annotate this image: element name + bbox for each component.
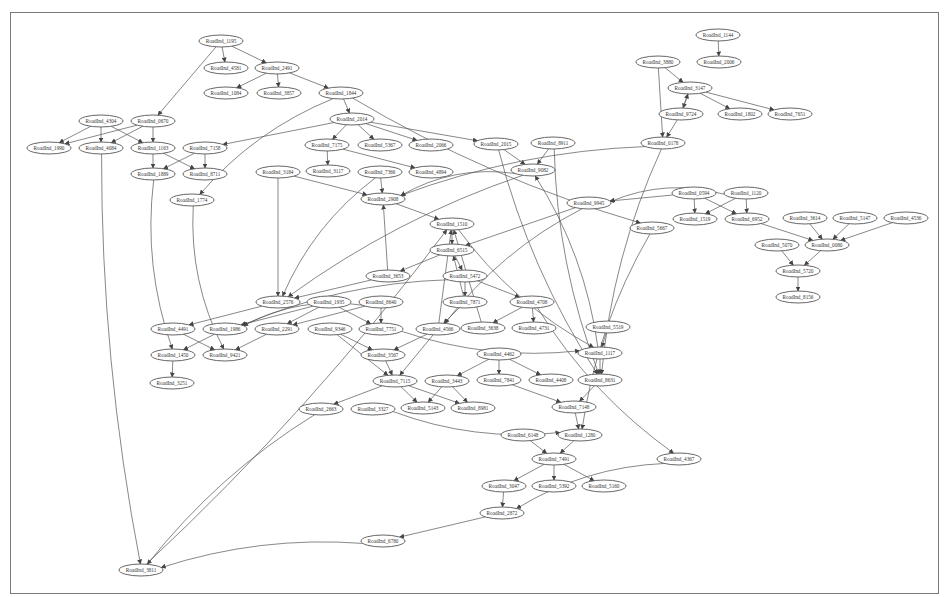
graph-node[interactable]: RoadInd_7366 — [358, 166, 402, 178]
graph-node[interactable]: RoadInd_2872 — [480, 507, 524, 519]
graph-node[interactable]: RoadInd_3251 — [150, 377, 194, 389]
graph-node[interactable]: RoadInd_1117 — [578, 347, 622, 359]
graph-node[interactable]: RoadInd_8711 — [183, 168, 227, 180]
graph-node[interactable]: RoadInd_1084 — [204, 87, 248, 99]
graph-node[interactable]: RoadInd_5147 — [833, 212, 877, 224]
graph-node[interactable]: RoadInd_7148 — [552, 401, 596, 413]
graph-node[interactable]: RoadInd_2908 — [361, 193, 405, 205]
graph-node[interactable]: RoadInd_0080 — [805, 239, 849, 251]
graph-node[interactable]: RoadInd_2291 — [255, 323, 299, 335]
graph-node[interactable]: RoadInd_7158 — [183, 142, 227, 154]
graph-node[interactable]: RoadInd_6148 — [501, 429, 545, 441]
graph-node[interactable]: RoadInd_5143 — [401, 402, 445, 414]
graph-node[interactable]: RoadInd_7651 — [768, 108, 812, 120]
graph-node[interactable]: RoadInd_4084 — [79, 142, 123, 154]
graph-node[interactable]: RoadInd_2006 — [697, 56, 741, 68]
graph-node[interactable]: RoadInd_8631 — [578, 374, 622, 386]
graph-node[interactable]: RoadInd_2066 — [409, 139, 453, 151]
node-label: RoadInd_1450 — [158, 352, 189, 358]
graph-node[interactable]: RoadInd_4462 — [477, 348, 521, 360]
graph-node[interactable]: RoadInd_7751 — [359, 323, 403, 335]
graph-node[interactable]: RoadInd_3638 — [461, 322, 505, 334]
graph-edge — [290, 73, 329, 88]
node-label: RoadInd_2006 — [704, 59, 735, 65]
node-label: RoadInd_7115 — [380, 378, 411, 384]
graph-node[interactable]: RoadInd_1802 — [718, 108, 762, 120]
graph-node[interactable]: RoadInd_4581 — [204, 62, 248, 74]
graph-node[interactable]: RoadInd_5472 — [443, 270, 487, 282]
graph-node[interactable]: RoadInd_1144 — [696, 29, 740, 41]
graph-node[interactable]: RoadInd_9082 — [511, 164, 555, 176]
graph-node[interactable]: RoadInd_3117 — [306, 165, 350, 177]
graph-node[interactable]: RoadInd_3443 — [425, 375, 469, 387]
graph-node[interactable]: RoadInd_1844 — [319, 87, 363, 99]
graph-node[interactable]: RoadInd_3857 — [257, 87, 301, 99]
graph-node[interactable]: RoadInd_1990 — [27, 142, 71, 154]
graph-node[interactable]: RoadInd_9945 — [567, 197, 611, 209]
graph-node[interactable]: RoadInd_4566 — [416, 323, 460, 335]
graph-node[interactable]: RoadInd_7871 — [443, 296, 487, 308]
node-label: RoadInd_1986 — [210, 326, 241, 332]
graph-node[interactable]: RoadInd_2014 — [330, 113, 374, 125]
graph-node[interactable]: RoadInd_1195 — [199, 35, 243, 47]
graph-node[interactable]: RoadInd_7491 — [532, 453, 576, 465]
graph-node[interactable]: RoadInd_0594 — [672, 187, 716, 199]
graph-node[interactable]: RoadInd_3614 — [783, 212, 827, 224]
graph-edge — [466, 208, 576, 246]
graph-node[interactable]: RoadInd_4367 — [657, 453, 701, 465]
graph-node[interactable]: RoadInd_4894 — [409, 166, 453, 178]
graph-node[interactable]: RoadInd_1510 — [430, 218, 474, 230]
graph-node[interactable]: RoadInd_8156 — [776, 291, 820, 303]
graph-node[interactable]: RoadInd_6515 — [430, 244, 474, 256]
graph-node[interactable]: RoadInd_8911 — [531, 137, 575, 149]
graph-node[interactable]: RoadInd_0670 — [131, 115, 175, 127]
graph-node[interactable]: RoadInd_1935 — [307, 296, 351, 308]
graph-node[interactable]: RoadInd_3047 — [482, 480, 526, 492]
graph-node[interactable]: RoadInd_2576 — [256, 296, 300, 308]
graph-node[interactable]: RoadInd_1519 — [673, 213, 717, 225]
graph-node[interactable]: RoadInd_5392 — [532, 480, 576, 492]
graph-node[interactable]: RoadInd_3653 — [366, 270, 410, 282]
graph-node[interactable]: RoadInd_6952 — [725, 213, 769, 225]
graph-node[interactable]: RoadInd_1450 — [151, 349, 195, 361]
graph-node[interactable]: RoadInd_4491 — [151, 323, 195, 335]
graph-node[interactable]: RoadInd_1774 — [170, 194, 214, 206]
graph-node[interactable]: RoadInd_2663 — [299, 403, 343, 415]
graph-node[interactable]: RoadInd_1120 — [724, 187, 768, 199]
graph-node[interactable]: RoadInd_3567 — [361, 349, 405, 361]
graph-edge — [746, 199, 747, 213]
graph-node[interactable]: RoadInd_1280 — [558, 429, 602, 441]
graph-node[interactable]: RoadInd_4304 — [79, 115, 123, 127]
graph-node[interactable]: RoadInd_1163 — [131, 142, 175, 154]
graph-node[interactable]: RoadInd_2491 — [255, 62, 299, 74]
graph-node[interactable]: RoadInd_3880 — [636, 56, 680, 68]
graph-node[interactable]: RoadInd_4731 — [512, 322, 556, 334]
graph-node[interactable]: RoadInd_5720 — [776, 265, 820, 277]
graph-node[interactable]: RoadInd_3811 — [119, 564, 163, 576]
graph-node[interactable]: RoadInd_9421 — [203, 349, 247, 361]
graph-node[interactable]: RoadInd_5367 — [358, 139, 402, 151]
graph-node[interactable]: RoadInd_4536 — [884, 212, 928, 224]
graph-node[interactable]: RoadInd_4708 — [510, 296, 554, 308]
graph-node[interactable]: RoadInd_9724 — [659, 108, 703, 120]
graph-node[interactable]: RoadInd_9346 — [308, 323, 352, 335]
graph-node[interactable]: RoadInd_0178 — [641, 137, 685, 149]
graph-node[interactable]: RoadInd_5519 — [586, 321, 630, 333]
graph-edge — [102, 154, 141, 564]
graph-node[interactable]: RoadInd_3327 — [351, 403, 395, 415]
graph-node[interactable]: RoadInd_7841 — [477, 374, 521, 386]
graph-node[interactable]: RoadInd_7175 — [305, 139, 349, 151]
graph-node[interactable]: RoadInd_5160 — [582, 480, 626, 492]
graph-node[interactable]: RoadInd_3184 — [256, 166, 300, 178]
graph-node[interactable]: RoadInd_8981 — [451, 402, 495, 414]
graph-node[interactable]: RoadInd_5070 — [755, 239, 799, 251]
graph-node[interactable]: RoadInd_8640 — [359, 296, 403, 308]
graph-node[interactable]: RoadInd_7115 — [373, 375, 417, 387]
graph-node[interactable]: RoadInd_2015 — [474, 138, 518, 150]
graph-node[interactable]: RoadInd_6780 — [361, 535, 405, 547]
graph-node[interactable]: RoadInd_5667 — [630, 222, 674, 234]
graph-node[interactable]: RoadInd_1889 — [131, 168, 175, 180]
graph-node[interactable]: RoadInd_3147 — [668, 82, 712, 94]
graph-node[interactable]: RoadInd_4408 — [529, 374, 573, 386]
graph-node[interactable]: RoadInd_1986 — [203, 323, 247, 335]
